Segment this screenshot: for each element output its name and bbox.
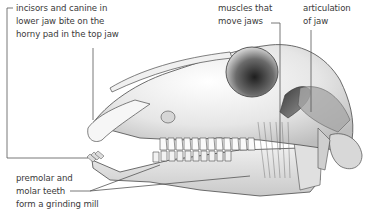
- label-line: move jaws: [218, 15, 272, 28]
- label-incisors: incisors and canine in lower jaw bite on…: [16, 2, 119, 41]
- occipital: [329, 134, 362, 169]
- label-articulation: articulation of jaw: [303, 2, 351, 28]
- eye-socket: [226, 47, 278, 97]
- label-line: articulation: [303, 2, 351, 15]
- label-line: molar teeth: [16, 185, 99, 198]
- label-line: premolar and: [16, 172, 99, 185]
- label-muscles: muscles that move jaws: [218, 2, 272, 28]
- label-line: horny pad in the top jaw: [16, 28, 119, 41]
- label-molars: premolar and molar teeth form a grinding…: [16, 172, 99, 211]
- lower-incisors: [87, 151, 104, 162]
- label-line: of jaw: [303, 15, 351, 28]
- label-line: form a grinding mill: [16, 198, 99, 211]
- label-line: muscles that: [218, 2, 272, 15]
- foramen: [161, 111, 175, 123]
- label-line: incisors and canine in: [16, 2, 119, 15]
- upper-teeth: [160, 138, 255, 150]
- label-line: lower jaw bite on the: [16, 15, 119, 28]
